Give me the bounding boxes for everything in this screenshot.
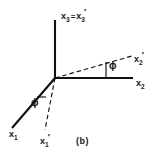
axis-label-x1: x1: [9, 130, 18, 141]
x2-prime-mark: ′: [142, 50, 144, 60]
angle-label-phi-right: ϕ: [109, 61, 117, 71]
axis-label-x2-prime: x2′: [134, 51, 144, 66]
axis-label-x1-prime: x1′: [40, 133, 50, 148]
x1-prime-axis-line: [45, 78, 55, 130]
x1-prime-mark: ′: [48, 132, 50, 142]
figure-caption: (b): [76, 136, 89, 146]
axis-label-x3: x3=x3′: [61, 8, 86, 23]
angle-label-phi-left: ϕ: [31, 98, 39, 108]
x1-subscript: 1: [14, 134, 18, 141]
x3-prime-mark: ′: [84, 7, 86, 17]
coordinate-rotation-figure: x3=x3′ x2′ x2 x1 x1′ ϕ ϕ (b): [0, 0, 157, 157]
x2-subscript: 2: [141, 83, 145, 90]
axis-label-x2: x2: [136, 79, 145, 90]
axes-drawing: [0, 0, 157, 157]
x2-prime-axis-line: [55, 56, 132, 78]
